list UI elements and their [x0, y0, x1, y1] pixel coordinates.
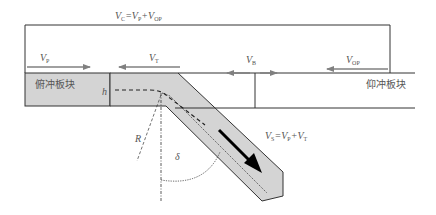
vc-equation: VC=VP+VOP — [115, 10, 163, 22]
vt-label: VT — [149, 52, 159, 64]
convergence-bracket — [25, 25, 390, 73]
overriding-plate-label: 仰冲板块 — [366, 78, 406, 90]
dip-angle-arc — [161, 152, 220, 181]
subduction-kinematics-diagram: VC=VP+VOP VP VT VB VOP VS=VP+VT h R δ 俯冲… — [0, 0, 436, 215]
radius-label: R — [134, 133, 141, 144]
vp-label: VP — [40, 52, 50, 64]
subducting-plate-label: 俯冲板块 — [35, 78, 75, 90]
h-label: h — [102, 86, 107, 97]
vb-label: VB — [246, 54, 256, 66]
vop-label: VOP — [346, 54, 360, 66]
vs-equation: VS=VP+VT — [265, 130, 308, 142]
dip-angle-label: δ — [175, 151, 180, 162]
